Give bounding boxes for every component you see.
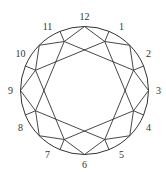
label-6: 6: [82, 159, 87, 170]
star-chord: [36, 42, 65, 111]
girdle-facet-edge: [25, 111, 35, 115]
star-chord: [36, 111, 105, 140]
label-7: 7: [45, 149, 50, 160]
girdle-facet-edge: [25, 66, 35, 70]
label-12: 12: [80, 11, 90, 22]
label-10: 10: [15, 48, 25, 59]
facet-lines: [21, 27, 149, 155]
girdle-facet-edge: [105, 139, 109, 149]
label-2: 2: [146, 48, 151, 59]
girdle-facet-edge: [133, 111, 143, 115]
label-1: 1: [119, 21, 124, 32]
label-3: 3: [156, 85, 161, 96]
girdle-facet-edge: [105, 31, 109, 41]
girdle-facet-edge: [60, 139, 64, 149]
clock-labels: 12 1 2 3 4 5 6 7 8 9 10 11: [8, 11, 161, 170]
girdle-facet-edge: [60, 31, 64, 41]
label-4: 4: [146, 122, 151, 133]
label-5: 5: [119, 149, 124, 160]
star-chord: [105, 70, 134, 139]
label-11: 11: [43, 21, 53, 32]
girdle-facet-edge: [133, 66, 143, 70]
star-chord: [64, 111, 133, 140]
gem-facet-diagram: 12 1 2 3 4 5 6 7 8 9 10 11: [0, 0, 166, 172]
star-chord: [36, 70, 65, 139]
label-8: 8: [18, 122, 23, 133]
star-chord: [36, 42, 105, 71]
label-9: 9: [8, 85, 13, 96]
star-chord: [105, 42, 134, 111]
star-chord: [64, 42, 133, 71]
girdle-circle: [21, 27, 149, 155]
